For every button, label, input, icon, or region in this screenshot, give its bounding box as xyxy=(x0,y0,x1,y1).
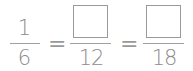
equals-sign-2: = xyxy=(120,33,138,55)
fraction-1-denominator: 6 xyxy=(12,48,36,69)
equals-sign-1: = xyxy=(48,33,66,55)
fraction-3-bar xyxy=(143,43,184,44)
fraction-2-bar xyxy=(70,43,111,44)
fraction-3-denominator: 18 xyxy=(147,48,181,69)
numerator-answer-box-2[interactable] xyxy=(146,5,181,38)
numerator-answer-box-1[interactable] xyxy=(73,5,108,38)
fraction-1-bar xyxy=(10,43,40,44)
fraction-1-numerator: 1 xyxy=(12,18,36,39)
fraction-2-denominator: 12 xyxy=(74,48,108,69)
